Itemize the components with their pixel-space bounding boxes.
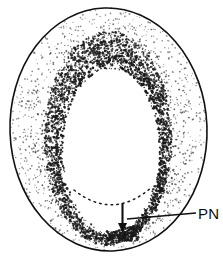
paper-background	[0, 0, 223, 260]
cross-section-diagram: PN	[0, 0, 223, 260]
figure-canvas: PN	[0, 0, 223, 260]
callout-label-pn: PN	[198, 205, 219, 222]
